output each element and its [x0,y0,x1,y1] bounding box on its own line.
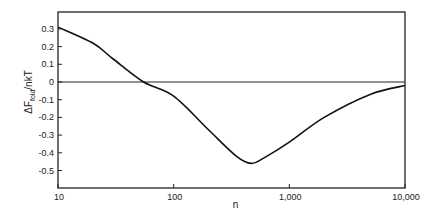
x-tick-label: 10,000 [392,192,420,202]
y-axis-title-sub: fold [29,90,36,101]
y-tick-label: -0.3 [38,130,54,140]
plot-frame [58,12,405,188]
y-tick-label: 0.1 [41,59,54,69]
y-tick-label: -0.4 [38,148,54,158]
x-axis-title: n [233,199,239,210]
y-tick-label: 0.3 [41,24,54,34]
y-tick-label: -0.5 [38,166,54,176]
y-tick-label: 0 [49,77,54,87]
x-tick-label: 10 [54,192,64,202]
x-tick-label: 1,000 [279,192,302,202]
y-axis-title-main: ΔF [23,101,34,114]
y-tick-label: -0.2 [38,112,54,122]
plot-border [58,12,405,188]
y-axis-title-tail: /nkT [23,70,34,89]
y-axis: 0.30.20.10-0.1-0.2-0.3-0.4-0.5 [38,24,62,176]
y-tick-label: -0.1 [38,95,54,105]
data-line [58,27,405,163]
chart: 0.30.20.10-0.1-0.2-0.3-0.4-0.5 101001,00… [0,0,440,217]
y-tick-label: 0.2 [41,42,54,52]
x-tick-label: 100 [167,192,182,202]
y-axis-title: ΔFfold/nkT [23,70,36,114]
